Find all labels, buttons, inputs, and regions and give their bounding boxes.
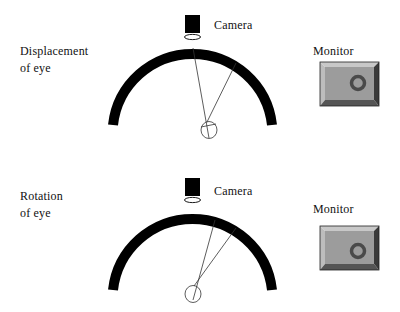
diagram-canvas — [0, 0, 400, 312]
lens-icon — [185, 197, 201, 202]
lens-icon — [185, 34, 201, 39]
arch — [113, 219, 272, 290]
arch — [113, 54, 272, 125]
monitor-icon — [320, 226, 379, 270]
camera-icon — [185, 178, 200, 196]
monitor-icon — [320, 62, 379, 106]
camera-icon — [185, 15, 200, 33]
